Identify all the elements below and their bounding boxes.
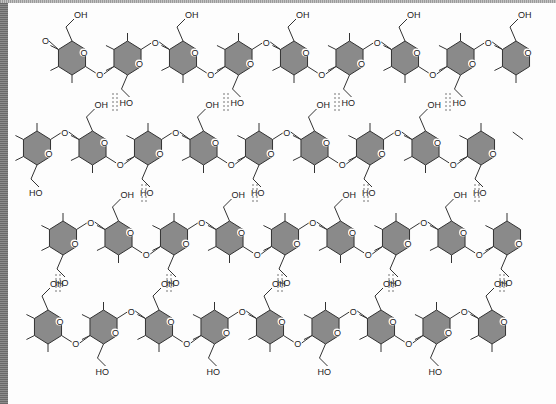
- hydroxyl-label: OH: [95, 100, 109, 110]
- glucose-ring: [502, 41, 529, 75]
- ring-oxygen: O: [57, 317, 64, 327]
- h-tick: [126, 136, 134, 140]
- hydroxyl-label: OH: [74, 10, 88, 20]
- oh-bond: [501, 269, 509, 277]
- glycosidic-bond: [339, 312, 349, 319]
- glycosidic-oxygen: O: [429, 70, 436, 80]
- h-tick: [293, 157, 301, 161]
- glycosidic-oxygen: O: [96, 70, 103, 80]
- hydroxyl-label: HO: [96, 367, 110, 377]
- ring-oxygen: O: [72, 239, 79, 249]
- hydroxyl-label: OH: [454, 190, 468, 200]
- ch2-bond: [455, 75, 461, 89]
- ch2-bond: [320, 344, 326, 358]
- ch2-bond: [309, 117, 315, 131]
- ring-oxygen: O: [379, 149, 386, 159]
- glycosidic-oxygen: O: [405, 339, 412, 349]
- h-tick: [137, 336, 145, 340]
- cellulose-diagram: OOHOOOHOOOOHOOHOOOOHOOHOOOOHOOHOOOOHOHOO…: [0, 0, 556, 404]
- terminal-bond: [49, 41, 58, 50]
- h-tick: [82, 315, 90, 319]
- glycosidic-bond: [173, 336, 183, 343]
- ring-oxygen: O: [358, 59, 365, 69]
- ring-oxygen: O: [390, 317, 397, 327]
- oh-bond: [57, 269, 65, 277]
- ring-oxygen: O: [414, 48, 421, 58]
- glycosidic-oxygen: O: [294, 339, 301, 349]
- hydroxyl-label: HO: [29, 188, 43, 198]
- hydroxyl-label: OH: [121, 190, 135, 200]
- glycosidic-oxygen: O: [72, 339, 79, 349]
- oh-bond: [198, 109, 206, 117]
- ring-oxygen: O: [223, 328, 230, 338]
- oh-bond: [177, 19, 185, 27]
- glycosidic-oxygen: O: [61, 128, 68, 138]
- h-tick: [304, 315, 312, 319]
- ring-oxygen: O: [445, 328, 452, 338]
- ch2-bond: [390, 255, 396, 269]
- hydroxyl-label: OH: [494, 279, 508, 289]
- glycosidic-bond: [132, 247, 142, 254]
- oh-bond: [288, 19, 296, 27]
- h-tick: [494, 67, 502, 71]
- h-tick: [41, 226, 49, 230]
- ch2-bond: [288, 27, 294, 41]
- oh-bond: [344, 89, 352, 97]
- h-tick: [359, 336, 367, 340]
- ring-oxygen: O: [112, 328, 119, 338]
- ch2-bond: [253, 165, 259, 179]
- glycosidic-bond: [410, 223, 420, 230]
- h-tick: [348, 136, 356, 140]
- hydroxyl-label: OH: [343, 190, 357, 200]
- glycosidic-oxygen: O: [152, 38, 159, 48]
- glycosidic-oxygen: O: [365, 250, 372, 260]
- ring-oxygen: O: [501, 317, 508, 327]
- h-tick: [248, 336, 256, 340]
- glycosidic-oxygen: O: [87, 218, 94, 228]
- glucose-ring: [79, 131, 106, 165]
- oh-bond: [233, 89, 241, 97]
- oh-bond: [87, 109, 95, 117]
- glycosidic-bond: [243, 247, 253, 254]
- glycosidic-oxygen: O: [228, 160, 235, 170]
- ring-oxygen: O: [490, 149, 497, 159]
- ch2-bond: [66, 27, 72, 41]
- glucose-ring: [216, 221, 243, 255]
- hydroxyl-label: HO: [342, 98, 356, 108]
- glycosidic-bond: [419, 67, 429, 74]
- h-tick: [459, 136, 467, 140]
- hydroxyl-label: HO: [207, 367, 221, 377]
- ring-oxygen: O: [525, 48, 532, 58]
- ring-oxygen: O: [303, 48, 310, 58]
- ring-oxygen: O: [81, 48, 88, 58]
- ring-oxygen: O: [334, 328, 341, 338]
- glucose-ring: [412, 131, 439, 165]
- ring-oxygen: O: [168, 317, 175, 327]
- oh-bond: [31, 179, 39, 187]
- glucose-ring: [169, 41, 196, 75]
- oh-bond: [168, 269, 176, 277]
- ch2-bond: [279, 255, 285, 269]
- glycosidic-oxygen: O: [339, 160, 346, 170]
- ring-oxygen: O: [516, 239, 523, 249]
- glycosidic-oxygen: O: [309, 218, 316, 228]
- oh-bond: [98, 358, 106, 366]
- oh-bond: [113, 199, 121, 207]
- oh-bond: [446, 199, 454, 207]
- glycosidic-bond: [513, 132, 523, 140]
- ch2-bond: [431, 344, 437, 358]
- glucose-ring: [280, 41, 307, 75]
- glucose-ring: [190, 131, 217, 165]
- ring-oxygen: O: [238, 228, 245, 238]
- ch2-bond: [87, 117, 93, 131]
- glucose-ring: [58, 41, 85, 75]
- h-tick: [97, 247, 105, 251]
- ch2-bond: [510, 27, 516, 41]
- ch2-bond: [446, 207, 452, 221]
- ch2-bond: [264, 296, 270, 310]
- glycosidic-oxygen: O: [183, 339, 190, 349]
- glycosidic-oxygen: O: [394, 128, 401, 138]
- ch2-bond: [177, 27, 183, 41]
- oh-bond: [320, 358, 328, 366]
- h-tick: [15, 136, 23, 140]
